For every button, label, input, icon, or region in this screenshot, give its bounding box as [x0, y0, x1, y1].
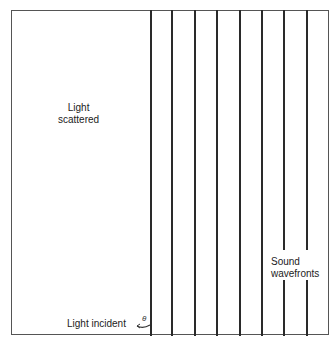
sound-wavefront-6	[261, 10, 263, 336]
sound-wavefront-3	[194, 10, 196, 336]
sound-wavefront-2	[171, 10, 173, 336]
light-scattered-line2: scattered	[58, 114, 99, 126]
sound-wavefront-5	[239, 10, 241, 336]
sound-wavefront-1	[150, 10, 152, 336]
light-scattered-label: Light scattered	[58, 102, 99, 126]
incident-angle-arrow-icon	[135, 320, 153, 332]
sound-wavefront-8	[306, 10, 308, 336]
medium-boundary-box	[11, 10, 329, 335]
sound-wavefront-4	[216, 10, 218, 336]
sound-wavefronts-line2: wavefronts	[271, 268, 319, 280]
sound-wavefront-7	[283, 10, 285, 336]
sound-wavefronts-label: Sound wavefronts	[271, 256, 319, 280]
sound-wavefronts-line1: Sound	[271, 256, 319, 268]
light-scattered-line1: Light	[58, 102, 99, 114]
light-incident-label: Light incident	[67, 318, 126, 330]
